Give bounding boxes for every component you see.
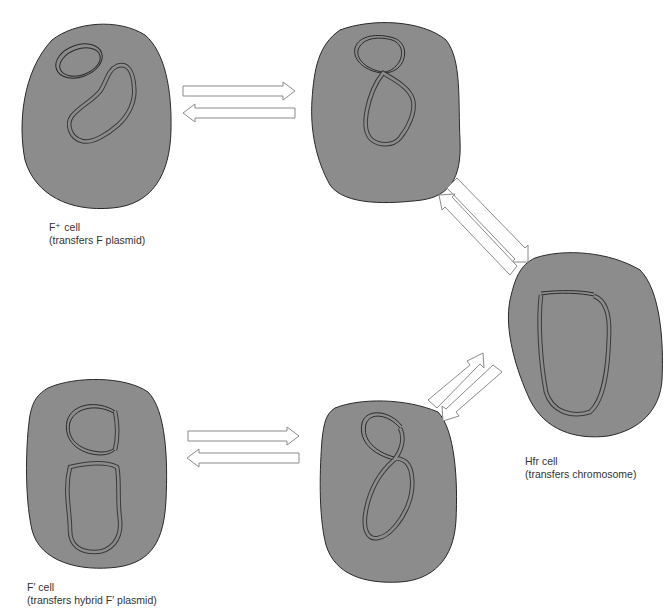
forward-arrow (183, 82, 295, 100)
f-plus-cell-label: F⁺ cell (transfers F plasmid) (49, 221, 145, 247)
conjugation-diagram (0, 0, 664, 612)
reversible-arrow-excising-fprime (187, 427, 299, 467)
integrating-cell (312, 23, 461, 203)
f-prime-cell-description: (transfers hybrid F′ plasmid) (27, 594, 157, 607)
f-prime-cell-label: F′ cell (transfers hybrid F′ plasmid) (27, 581, 157, 607)
f-prime-cell-title: F′ cell (27, 581, 157, 594)
f-plus-cell (22, 24, 171, 208)
f-prime-cell (27, 379, 167, 568)
f-plus-cell-title: F⁺ cell (49, 221, 145, 234)
reverse-arrow (183, 104, 295, 122)
reversible-arrow-integrating-hfr (439, 178, 528, 275)
f-plus-cell-description: (transfers F plasmid) (49, 234, 145, 247)
reversible-arrow-hfr-excising (428, 353, 502, 421)
excising-cell (320, 401, 456, 582)
hfr-cell-label: Hfr cell (transfers chromosome) (525, 455, 636, 481)
reversible-arrow-fplus-integrating (183, 82, 295, 122)
forward-arrow (188, 427, 299, 445)
hfr-cell (508, 253, 662, 437)
hfr-cell-title: Hfr cell (525, 455, 636, 468)
hfr-cell-description: (transfers chromosome) (525, 468, 636, 481)
reverse-arrow (187, 449, 299, 467)
